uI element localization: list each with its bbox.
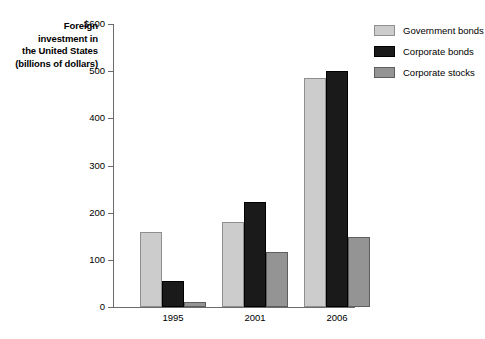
axis-title-line-2: investment in [0, 33, 98, 46]
y-axis-line [113, 24, 114, 307]
y-tick-mark-0 [108, 307, 113, 308]
plot-area: 0100200300400500$600 199520012006 [113, 24, 355, 307]
y-tick-mark-200 [108, 213, 113, 214]
y-tick-label-400: 400 [89, 114, 105, 124]
bar-2001-corporate-stocks [266, 252, 288, 307]
axis-title-line-4: (billions of dollars) [0, 58, 98, 71]
bar-2006-corporate-bonds [326, 71, 348, 307]
axis-title-line-3: the United States [0, 45, 98, 58]
y-tick-label-100: 100 [89, 255, 105, 265]
legend-swatch-corporate-stocks [374, 67, 395, 78]
bar-2006-government-bonds [304, 78, 326, 307]
legend-swatch-corporate-bonds [374, 46, 395, 57]
legend-label-1: Corporate bonds [403, 47, 474, 57]
legend-item-corporate-bonds: Corporate bonds [374, 41, 485, 62]
x-axis-label-2006: 2006 [304, 313, 370, 323]
x-axis-label-1995: 1995 [140, 313, 206, 323]
chart-page: Foreign investment in the United States … [0, 0, 485, 339]
x-axis-line [113, 307, 355, 308]
legend-swatch-government-bonds [374, 25, 395, 36]
y-tick-label-300: 300 [89, 161, 105, 171]
legend-item-corporate-stocks: Corporate stocks [374, 62, 485, 83]
bar-1995-government-bonds [140, 232, 162, 307]
bar-1995-corporate-stocks [184, 302, 206, 307]
y-tick-mark-600 [108, 24, 113, 25]
bar-1995-corporate-bonds [162, 281, 184, 307]
bar-2001-corporate-bonds [244, 202, 266, 307]
chart-legend: Government bondsCorporate bondsCorporate… [374, 20, 485, 83]
y-tick-label-500: 500 [89, 66, 105, 76]
bar-2006-corporate-stocks [348, 237, 370, 307]
y-tick-label-200: 200 [89, 208, 105, 218]
y-tick-mark-100 [108, 260, 113, 261]
bar-2001-government-bonds [222, 222, 244, 307]
legend-label-0: Government bonds [403, 26, 484, 36]
y-tick-mark-400 [108, 118, 113, 119]
y-tick-label-0: 0 [100, 302, 105, 312]
legend-item-government-bonds: Government bonds [374, 20, 485, 41]
y-tick-mark-300 [108, 166, 113, 167]
y-tick-label-600: $600 [84, 19, 105, 29]
y-tick-mark-500 [108, 71, 113, 72]
x-axis-label-2001: 2001 [222, 313, 288, 323]
legend-label-2: Corporate stocks [403, 68, 475, 78]
